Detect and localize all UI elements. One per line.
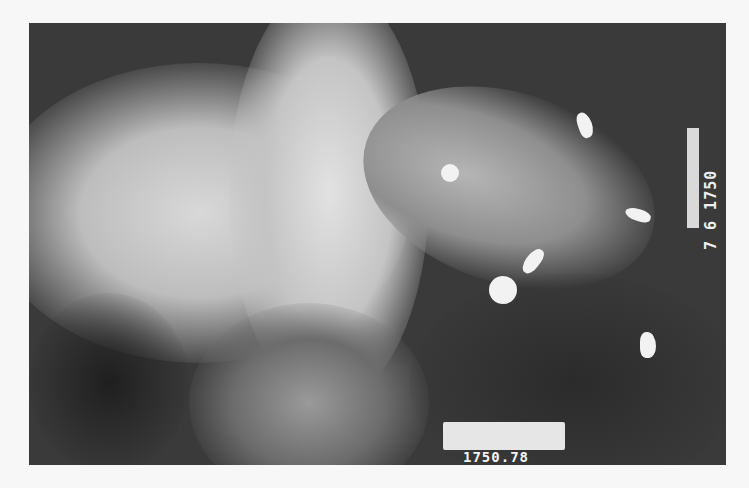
- scale-bar-bottom: [443, 422, 565, 450]
- crescent-marker: [640, 332, 656, 358]
- radiograph-image: [29, 23, 726, 465]
- round-marker: [489, 276, 517, 304]
- round-marker: [441, 164, 459, 182]
- lower-shadow-left: [29, 293, 189, 465]
- scale-bar-right: [687, 128, 699, 228]
- scale-label-right: 7 6 1750: [702, 170, 720, 250]
- scale-label-bottom: 1750.78: [463, 449, 529, 465]
